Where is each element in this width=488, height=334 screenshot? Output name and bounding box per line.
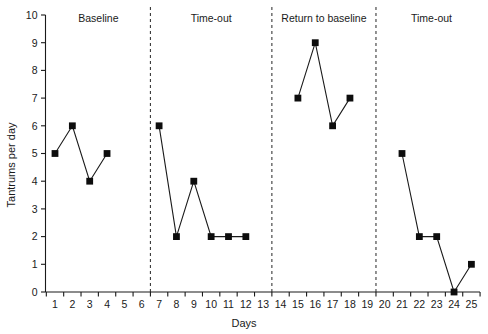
x-tick-label: 12: [240, 298, 252, 310]
phase-label-group: BaselineTime-outReturn to baselineTime-o…: [78, 12, 452, 24]
phase-label: Baseline: [78, 12, 118, 24]
phase-label: Return to baseline: [281, 12, 366, 24]
y-tick-label: 6: [32, 120, 38, 132]
y-tick-label: 1: [32, 258, 38, 270]
data-point-marker: [451, 289, 458, 296]
series-segment-line: [298, 43, 350, 126]
data-point-marker: [190, 178, 197, 185]
data-point-marker: [104, 150, 111, 157]
x-tick-label: 24: [448, 298, 460, 310]
data-point-marker: [86, 178, 93, 185]
x-tick-label: 13: [257, 298, 269, 310]
x-tick-label: 21: [396, 298, 408, 310]
y-tick-label: 5: [32, 147, 38, 159]
y-tick-label: 3: [32, 203, 38, 215]
phase-label: Time-out: [191, 12, 232, 24]
series-segment-line: [402, 154, 471, 293]
data-point-marker: [225, 233, 232, 240]
y-tick-label: 8: [32, 64, 38, 76]
x-tick-label: 11: [223, 298, 234, 310]
x-tick-label: 23: [431, 298, 443, 310]
data-point-marker: [399, 150, 406, 157]
data-point-marker: [468, 261, 475, 268]
series-segment-line: [159, 126, 246, 237]
chart-canvas: BaselineTime-outReturn to baselineTime-o…: [0, 0, 488, 334]
phase-label: Time-out: [411, 12, 452, 24]
x-axis-title: Days: [231, 317, 257, 329]
data-point-marker: [173, 233, 180, 240]
x-tick-label: 19: [361, 298, 373, 310]
y-tick-label: 9: [32, 37, 38, 49]
data-point-marker: [329, 122, 336, 129]
x-tick-label: 15: [292, 298, 304, 310]
x-tick-label: 8: [174, 298, 180, 310]
x-tick-label: 6: [139, 298, 145, 310]
x-tick-label: 9: [191, 298, 197, 310]
x-tick-label: 20: [379, 298, 391, 310]
x-tick-label: 14: [275, 298, 287, 310]
x-tick-label: 22: [414, 298, 426, 310]
data-point-marker: [433, 233, 440, 240]
y-axis: 012345678910: [26, 9, 46, 298]
x-tick-label: 18: [344, 298, 356, 310]
data-point-marker: [52, 150, 59, 157]
x-tick-label: 3: [87, 298, 93, 310]
y-tick-label: 7: [32, 92, 38, 104]
x-tick-label: 25: [466, 298, 478, 310]
series-segment-line: [55, 126, 107, 181]
y-tick-label: 0: [32, 286, 38, 298]
x-tick-label: 17: [327, 298, 339, 310]
x-tick-label: 1: [52, 298, 58, 310]
y-axis-title: Tantrums per day: [5, 122, 17, 207]
x-tick-label: 7: [156, 298, 162, 310]
data-point-marker: [69, 122, 76, 129]
y-tick-label: 2: [32, 230, 38, 242]
data-point-marker: [208, 233, 215, 240]
data-point-marker: [295, 95, 302, 102]
phase-divider-group: [150, 7, 376, 292]
data-point-marker: [416, 233, 423, 240]
data-point-marker: [242, 233, 249, 240]
data-point-marker: [156, 122, 163, 129]
x-tick-label: 2: [69, 298, 75, 310]
x-tick-label: 10: [205, 298, 217, 310]
x-tick-label: 5: [121, 298, 127, 310]
x-axis: 1234567891011121314151617181920212223242…: [46, 292, 481, 310]
tantrums-per-day-chart: BaselineTime-outReturn to baselineTime-o…: [0, 0, 488, 334]
data-series-group: [52, 39, 475, 295]
x-tick-label: 4: [104, 298, 110, 310]
data-point-marker: [347, 95, 354, 102]
x-tick-label: 16: [309, 298, 321, 310]
data-point-marker: [312, 39, 319, 46]
y-tick-label: 10: [26, 9, 38, 21]
y-tick-label: 4: [32, 175, 38, 187]
